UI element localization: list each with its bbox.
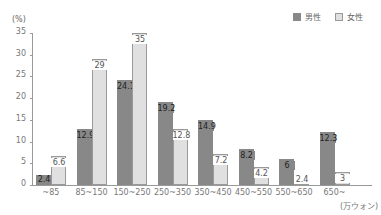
x-tick-label: 550~650 <box>272 188 316 197</box>
y-tick-mark <box>30 185 33 186</box>
bar-value-label: 12.9 <box>77 131 93 140</box>
x-tick-label: 650~ <box>313 188 357 197</box>
x-axis <box>32 185 372 186</box>
legend-male-swatch <box>293 13 301 21</box>
y-tick-mark <box>30 142 33 143</box>
y-tick-mark <box>30 120 33 121</box>
legend-male-label: 男性 <box>305 11 321 22</box>
x-tick-label: 350~450 <box>191 188 235 197</box>
legend-female-swatch <box>335 13 343 21</box>
y-tick-label: 5 <box>2 157 26 166</box>
x-tick-label: 250~350 <box>151 188 195 197</box>
x-tick-label: ~85 <box>29 188 73 197</box>
bar-value-label: 4.2 <box>254 169 270 178</box>
y-tick-label: 15 <box>2 114 26 123</box>
y-tick-mark <box>30 55 33 56</box>
bar-female <box>92 59 107 185</box>
bar-male <box>158 102 173 185</box>
bar-value-label: 12.8 <box>173 131 189 140</box>
y-tick-label: 25 <box>2 70 26 79</box>
bar-value-label: 24.1 <box>117 82 133 91</box>
bar-value-label: 6.6 <box>51 158 67 167</box>
chart-title <box>150 0 260 3</box>
y-tick-mark <box>30 163 33 164</box>
y-axis <box>32 33 33 185</box>
legend: 男性 女性 <box>293 11 363 22</box>
bar-male <box>117 80 132 185</box>
bar-value-label: 6 <box>279 161 295 170</box>
y-tick-label: 20 <box>2 92 26 101</box>
bar-female <box>132 33 147 185</box>
y-tick-label: 10 <box>2 136 26 145</box>
y-tick-mark <box>30 98 33 99</box>
bar-value-label: 19.2 <box>158 104 174 113</box>
bar-value-label: 12.3 <box>320 134 336 143</box>
x-tick-label: 150~250 <box>110 188 154 197</box>
y-tick-label: 0 <box>2 179 26 188</box>
bar-value-label: 2.4 <box>36 175 52 184</box>
bar-value-label: 29 <box>92 61 108 70</box>
y-tick-label: 30 <box>2 49 26 58</box>
bar-value-label: 7.2 <box>213 156 229 165</box>
legend-female-label: 女性 <box>347 11 363 22</box>
bar-value-label: 14.9 <box>198 122 214 131</box>
bar-value-label: 2.4 <box>294 175 310 184</box>
bar-value-label: 8.2 <box>239 151 255 160</box>
bar-value-label: 35 <box>132 35 148 44</box>
x-tick-label: 85~150 <box>70 188 114 197</box>
y-axis-unit: (%) <box>12 15 26 24</box>
x-axis-unit: (万ウォン) <box>340 200 378 211</box>
y-tick-mark <box>30 33 33 34</box>
bar-value-label: 3 <box>335 174 351 183</box>
y-tick-label: 35 <box>2 27 26 36</box>
x-tick-label: 450~550 <box>232 188 276 197</box>
y-tick-mark <box>30 76 33 77</box>
